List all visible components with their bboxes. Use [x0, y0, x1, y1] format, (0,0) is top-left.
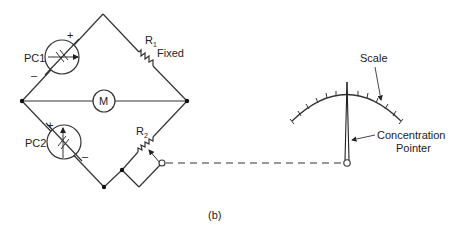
- r1-label: R1: [145, 34, 157, 48]
- node-right: [185, 99, 189, 103]
- scale-leader-arrow: [375, 67, 381, 100]
- bridge-circuit-diagram: PC1 + – M R1 Fixed PC2 + – R2: [0, 0, 461, 229]
- pc2-plus-sign: +: [47, 119, 53, 131]
- r2-label: R2: [136, 125, 148, 139]
- r2-wiper-terminal: [159, 160, 165, 166]
- figure-caption: (b): [208, 209, 221, 221]
- meter-label: M: [99, 95, 108, 107]
- pointer-label-line1: Concentration: [377, 129, 446, 141]
- node-junction: [120, 168, 124, 172]
- scale-label: Scale: [360, 52, 388, 64]
- pc1-photocell: [45, 39, 79, 75]
- pc1-label: PC1: [24, 52, 45, 64]
- pc1-plus-sign: +: [67, 29, 73, 41]
- pc1-minus-sign: –: [31, 69, 38, 81]
- r1-resistor-icon: [139, 50, 153, 66]
- r1-fixed-note: Fixed: [157, 47, 184, 59]
- pointer-leader-arrow: [352, 135, 375, 140]
- node-left: [20, 99, 24, 103]
- node-bottom: [102, 185, 106, 189]
- pc2-label: PC2: [25, 137, 46, 149]
- pointer-label-line2: Pointer: [396, 142, 431, 154]
- pc2-minus-sign: –: [82, 150, 89, 162]
- r2-resistor-icon: [138, 137, 153, 152]
